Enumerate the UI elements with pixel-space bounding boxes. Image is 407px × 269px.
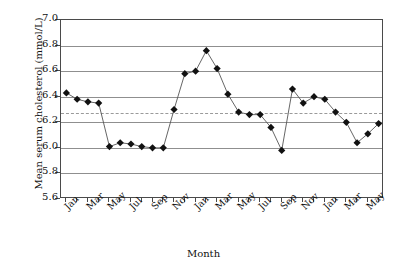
data-point (214, 65, 221, 72)
data-point (138, 143, 145, 150)
data-point (160, 144, 167, 151)
data-point (224, 91, 231, 98)
series-line (61, 20, 384, 199)
y-axis-tick-label: 7.0 (0, 12, 58, 23)
x-axis-title: Month (0, 248, 407, 259)
data-point (63, 89, 70, 96)
data-point (170, 106, 177, 113)
y-axis-tick-label: 6.8 (0, 38, 58, 49)
y-axis-tick-label: 6.0 (0, 140, 58, 151)
data-point (310, 93, 317, 100)
data-point (192, 68, 199, 75)
chart-figure: Mean serum cholesterol (mmol/L) Month 5.… (0, 0, 407, 269)
data-point (149, 144, 156, 151)
data-point (127, 140, 134, 147)
data-point (106, 143, 113, 150)
data-point (246, 111, 253, 118)
data-point (289, 85, 296, 92)
data-point (84, 98, 91, 105)
data-point (278, 147, 285, 154)
y-axis-tick-label: 5.6 (0, 191, 58, 202)
y-axis-tick-label: 6.6 (0, 63, 58, 74)
y-axis-tick-label: 5.8 (0, 165, 58, 176)
data-point (235, 108, 242, 115)
y-axis-tick-label: 6.2 (0, 114, 58, 125)
data-point (117, 139, 124, 146)
data-point (300, 100, 307, 107)
data-point (203, 47, 210, 54)
data-point (95, 100, 102, 107)
data-point (181, 70, 188, 77)
plot-area (60, 19, 383, 198)
y-axis-tick-label: 6.4 (0, 89, 58, 100)
data-point (74, 96, 81, 103)
